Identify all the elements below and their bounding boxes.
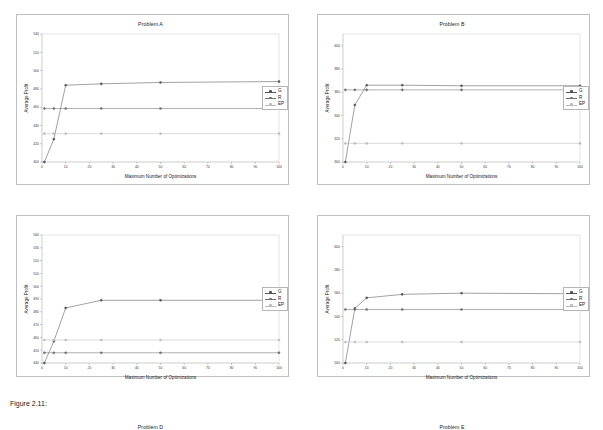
chart-panel-problem-e: Problem E 500520540560580600010203040506… xyxy=(301,203,603,407)
x-axis-title: Maximum Number of Optimizations xyxy=(426,375,498,380)
legend-label: EP xyxy=(579,303,585,308)
data-point-g xyxy=(460,292,462,294)
y-tick-label: 540 xyxy=(334,315,340,319)
data-point-g xyxy=(401,293,403,295)
x-tick-label: 50 xyxy=(460,366,464,370)
y-tick-label: 440 xyxy=(33,124,39,128)
x-tick-label: 50 xyxy=(159,366,163,370)
y-axis-title: Average Profit xyxy=(24,83,29,113)
chart-panel-problem-d: Problem D 440450460470480490500510520530… xyxy=(0,203,301,407)
data-point-ep xyxy=(344,341,346,343)
legend-label: EP xyxy=(579,102,585,107)
x-tick-label: 90 xyxy=(253,366,257,370)
x-tick-label: 90 xyxy=(554,165,558,169)
x-tick-label: 40 xyxy=(135,165,139,169)
series-line-g xyxy=(345,293,580,363)
data-point-ep xyxy=(53,339,55,341)
data-point-ep xyxy=(366,142,368,144)
x-axis-title: Maximum Number of Optimizations xyxy=(125,174,197,179)
legend-label: R xyxy=(278,96,281,101)
legend-item-ep: EP xyxy=(265,303,284,308)
data-point-ep xyxy=(159,133,161,135)
data-point-r xyxy=(401,308,403,310)
data-point-g xyxy=(460,85,462,87)
legend-label: R xyxy=(579,297,582,302)
x-tick-label: 10 xyxy=(365,366,369,370)
legend-label: G xyxy=(579,89,583,94)
legend-label: R xyxy=(579,96,582,101)
data-point-ep xyxy=(401,142,403,144)
x-tick-label: 80 xyxy=(230,366,234,370)
legend-swatch-icon xyxy=(265,303,276,308)
data-point-ep xyxy=(460,341,462,343)
y-tick-label: 380 xyxy=(334,67,340,71)
chart-panel-problem-b: Problem B 300320340360380400010203040506… xyxy=(301,0,603,203)
series-line-g xyxy=(44,82,279,162)
x-tick-label: 70 xyxy=(507,165,511,169)
legend-item-ep: EP xyxy=(566,303,585,308)
data-point-ep xyxy=(159,339,161,341)
x-tick-label: 0 xyxy=(41,165,43,169)
x-tick-label: 40 xyxy=(436,165,440,169)
x-axis-title: Maximum Number of Optimizations xyxy=(125,375,197,380)
x-tick-label: 30 xyxy=(111,165,115,169)
chart-panel-problem-a: Problem A 400420440460480500520540010203… xyxy=(0,0,301,203)
legend-swatch-icon xyxy=(265,89,276,94)
x-tick-label: 80 xyxy=(531,366,535,370)
legend-swatch-icon xyxy=(265,96,276,101)
x-tick-label: 30 xyxy=(412,366,416,370)
plot-area-problem-d: 4404504604704804905005105205305400102030… xyxy=(16,229,285,389)
x-tick-label: 60 xyxy=(182,366,186,370)
data-point-ep xyxy=(53,133,55,135)
x-tick-label: 60 xyxy=(483,366,487,370)
data-point-r xyxy=(53,352,55,354)
y-tick-label: 580 xyxy=(334,268,340,272)
data-point-ep xyxy=(278,133,280,135)
y-tick-label: 400 xyxy=(334,44,340,48)
y-tick-label: 480 xyxy=(33,310,39,314)
legend-item-g: G xyxy=(566,290,585,295)
chart-legend: GREP xyxy=(563,86,589,110)
data-point-g xyxy=(100,299,102,301)
data-point-r xyxy=(65,107,67,109)
x-tick-label: 100 xyxy=(276,165,282,169)
legend-label: G xyxy=(579,290,583,295)
plot-area-problem-b: 3003203403603804000102030405060708090100… xyxy=(317,28,586,188)
x-tick-label: 10 xyxy=(64,366,68,370)
x-tick-label: 70 xyxy=(206,165,210,169)
data-point-r xyxy=(159,352,161,354)
x-tick-label: 60 xyxy=(182,165,186,169)
chart-title: Problem D xyxy=(0,424,301,430)
chart-legend: GREP xyxy=(563,287,589,311)
data-point-r xyxy=(159,107,161,109)
y-tick-label: 340 xyxy=(334,114,340,118)
x-tick-label: 30 xyxy=(111,366,115,370)
legend-label: R xyxy=(278,297,281,302)
y-tick-label: 320 xyxy=(334,137,340,141)
x-tick-label: 50 xyxy=(159,165,163,169)
data-point-r xyxy=(354,308,356,310)
legend-label: G xyxy=(278,89,282,94)
plot-area-problem-e: 5005205405605806000102030405060708090100… xyxy=(317,229,586,389)
data-point-ep xyxy=(366,341,368,343)
y-tick-label: 450 xyxy=(33,349,39,353)
data-point-r xyxy=(43,107,45,109)
x-tick-label: 100 xyxy=(577,165,583,169)
data-point-ep xyxy=(579,341,581,343)
y-tick-label: 520 xyxy=(334,338,340,342)
y-tick-label: 490 xyxy=(33,297,39,301)
data-point-r xyxy=(100,107,102,109)
x-tick-label: 90 xyxy=(253,165,257,169)
data-point-g xyxy=(401,84,403,86)
legend-label: EP xyxy=(278,102,284,107)
data-point-g xyxy=(278,80,280,82)
legend-label: EP xyxy=(278,303,284,308)
axis-lines xyxy=(42,34,279,162)
legend-swatch-icon xyxy=(566,297,577,302)
data-point-g xyxy=(159,299,161,301)
y-tick-label: 440 xyxy=(33,361,39,365)
chart-title: Problem A xyxy=(0,21,301,27)
x-tick-label: 50 xyxy=(460,165,464,169)
x-tick-label: 100 xyxy=(577,366,583,370)
